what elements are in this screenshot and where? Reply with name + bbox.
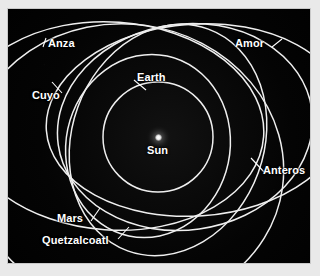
- leader-line-amor: [272, 39, 282, 47]
- label-quetzalcoatl: Quetzalcoatl: [42, 234, 109, 246]
- label-anza: Anza: [48, 37, 75, 49]
- label-anteros: Anteros: [263, 164, 305, 176]
- orbit-anteros: [44, 9, 310, 247]
- label-amor: Amor: [235, 37, 264, 49]
- diagram-frame: Sun Anza Amor Cuyo Earth Anteros Mars Qu…: [8, 9, 310, 263]
- label-sun: Sun: [147, 144, 168, 156]
- label-mars: Mars: [57, 212, 83, 224]
- sun-marker: [155, 134, 162, 141]
- orbit-diagram-figure: Sun Anza Amor Cuyo Earth Anteros Mars Qu…: [0, 0, 320, 276]
- label-cuyo: Cuyo: [32, 89, 60, 101]
- label-earth: Earth: [137, 71, 166, 83]
